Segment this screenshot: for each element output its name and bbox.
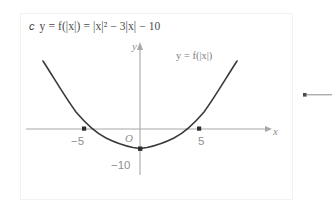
x-axis [26,126,272,132]
graph-plot: y x O −5 5 −10 y = f(|x|) [21,14,294,201]
curve-label: y = f(|x|) [176,50,213,62]
y-axis [137,42,143,175]
x-tick-label-neg5: −5 [71,135,84,147]
x-tick-label-5: 5 [198,135,204,147]
point-marker-right-root [197,127,201,131]
point-marker-left-root [82,127,86,131]
point-marker-vertex [138,147,142,151]
y-tick-label-neg10: −10 [111,159,131,171]
annotation-pointer [303,92,332,98]
origin-label: O [125,132,133,144]
x-axis-label: x [272,125,278,137]
figure-panel: cy = f(|x|) = |x|² − 3|x| − 10 y x O −5 … [20,13,293,200]
y-axis-label: y [131,40,137,52]
marked-points [82,127,201,151]
